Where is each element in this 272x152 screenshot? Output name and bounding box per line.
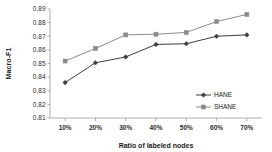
legend-marker-shane xyxy=(202,105,206,109)
series-hane xyxy=(63,33,249,85)
legend-label-hane: HANE xyxy=(214,91,233,98)
data-point-shane xyxy=(215,20,219,24)
legend-item-shane[interactable]: SHANE xyxy=(196,103,237,110)
data-point-shane xyxy=(184,30,188,34)
x-tick-label: 60% xyxy=(210,124,223,131)
y-tick-label: 0.86 xyxy=(33,46,46,53)
x-axis-label: Ratio of labeled nodes xyxy=(119,142,194,149)
x-tick-label: 70% xyxy=(240,124,253,131)
y-tick-label: 0.83 xyxy=(33,87,46,94)
y-axis-label: Macro-F1 xyxy=(5,48,12,80)
y-tick-label: 0.87 xyxy=(33,33,46,40)
series-line-shane xyxy=(65,14,247,61)
x-tick-label: 30% xyxy=(119,124,132,131)
y-tick-label: 0.82 xyxy=(33,101,46,108)
y-tick-label: 0.85 xyxy=(33,60,46,67)
x-tick-label: 20% xyxy=(89,124,102,131)
legend-marker-hane xyxy=(201,93,206,98)
data-point-hane xyxy=(123,55,128,60)
data-point-hane xyxy=(154,42,159,47)
y-tick-label: 0.89 xyxy=(33,5,46,12)
x-tick-label: 10% xyxy=(59,124,72,131)
data-point-shane xyxy=(124,33,128,37)
data-point-shane xyxy=(93,47,97,51)
y-tick-label: 0.81 xyxy=(33,114,46,121)
x-tick-label: 50% xyxy=(180,124,193,131)
x-tick-label: 40% xyxy=(149,124,162,131)
legend-label-shane: SHANE xyxy=(214,103,237,110)
chart-container: 0.810.820.830.840.850.860.870.880.8910%2… xyxy=(0,0,272,152)
data-point-shane xyxy=(154,32,158,36)
y-tick-label: 0.88 xyxy=(33,19,46,26)
series-shane xyxy=(63,12,249,63)
data-point-hane xyxy=(184,41,189,46)
legend-item-hane[interactable]: HANE xyxy=(196,91,233,98)
macro-f1-line-chart: 0.810.820.830.840.850.860.870.880.8910%2… xyxy=(0,0,272,152)
data-point-hane xyxy=(245,33,250,38)
data-point-hane xyxy=(214,34,219,39)
data-point-shane xyxy=(245,12,249,16)
y-tick-label: 0.84 xyxy=(33,73,46,80)
data-point-shane xyxy=(63,59,67,63)
